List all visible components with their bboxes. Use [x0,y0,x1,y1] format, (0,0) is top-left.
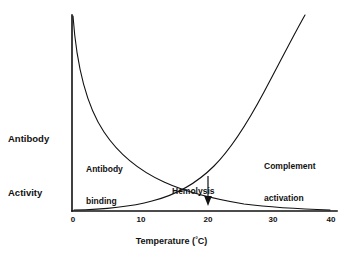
x-tick-label-10: 10 [137,215,146,224]
annotation-antibody-binding-line-2: binding [86,196,123,207]
chart-figure: 0 10 20 30 40 Antibody Activity Antibody… [0,0,343,258]
annotation-hemolysis-line-1: Hemolysis [172,186,215,197]
annotation-antibody-binding-line-1: Antibody [86,164,123,175]
annotation-antibody-binding: Antibody binding [86,142,123,229]
x-tick-label-0: 0 [71,215,76,224]
annotation-complement-activation-line-2: activation [264,193,315,204]
annotation-complement-activation-line-1: Complement [264,161,315,172]
x-axis-title: Temperature (°C) [0,236,343,248]
x-axis-title-unit: C) [198,236,208,246]
annotation-hemolysis: Hemolysis [172,164,215,218]
annotation-complement-activation: Complement activation [264,139,315,226]
y-axis-title: Antibody Activity [8,94,49,238]
x-axis-title-text: Temperature ( [136,236,195,246]
y-axis-title-line-2: Activity [8,184,49,202]
y-axis-title-line-1: Antibody [8,130,49,148]
x-tick-label-40: 40 [327,215,336,224]
